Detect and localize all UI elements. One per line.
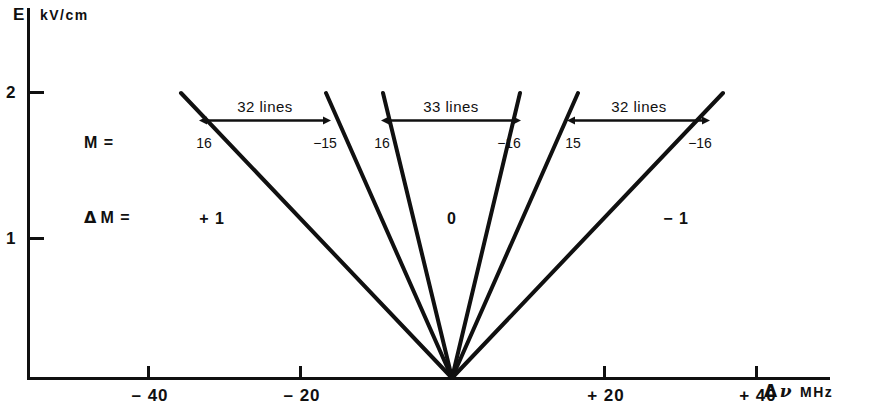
y-tick-label-1: 1	[6, 230, 15, 247]
m-value-minus1-start: 15	[565, 136, 581, 150]
m-value-zero-start: 16	[374, 136, 390, 150]
fan-line-m-16-minus1	[452, 93, 723, 378]
delta-m-value-zero: 0	[447, 211, 457, 227]
delta-m-delta-symbol: Δ	[84, 208, 97, 227]
delta-m-text: M =	[100, 209, 130, 226]
delta-m-row-caption: ΔM =	[84, 210, 131, 226]
y-axis-ticks	[29, 93, 44, 239]
m-value-plus1-end: −15	[313, 136, 337, 150]
x-tick-label-minus40: – 40	[131, 387, 168, 404]
x-axis-unit: MHz	[800, 384, 833, 400]
x-axis-nu-symbol: ν	[780, 381, 792, 401]
x-tick-label-minus20: – 20	[283, 387, 320, 404]
group-count-zero: 33 lines	[423, 99, 479, 114]
group-count-plus1: 32 lines	[237, 99, 293, 114]
fan-line-m16-zero	[383, 93, 452, 378]
m-row-caption: M =	[84, 135, 114, 151]
stark-fan-diagram-figure: E kV/cm ΔνMHz 2 1 – 40 – 20 + 20 + 40 32…	[0, 0, 876, 411]
y-tick-label-2: 2	[6, 84, 15, 101]
y-axis-title: E	[13, 6, 25, 23]
group-count-minus1: 32 lines	[611, 99, 667, 114]
delta-m-value-minus1: − 1	[663, 211, 689, 227]
x-tick-label-plus20: + 20	[587, 387, 625, 404]
m-value-minus1-end: −16	[688, 136, 712, 150]
plot-canvas	[0, 0, 876, 411]
fan-lines	[181, 93, 723, 378]
x-tick-label-plus40: + 40	[739, 387, 777, 404]
m-value-zero-end: −16	[497, 136, 521, 150]
m-value-plus1-start: 16	[196, 136, 212, 150]
delta-m-value-plus1: + 1	[199, 211, 225, 227]
y-axis-unit: kV/cm	[40, 8, 89, 22]
